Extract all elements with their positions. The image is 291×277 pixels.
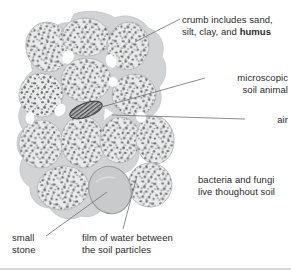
label-microbes: bacteria and fungi live thoughout soil <box>198 174 275 198</box>
label-small-stone-line1: small <box>12 232 36 244</box>
label-crumb: crumb includes sand, silt, clay, and hum… <box>182 14 273 38</box>
label-small-stone-line2: stone <box>12 244 36 256</box>
soil-structure-figure: crumb includes sand, silt, clay, and hum… <box>0 0 291 277</box>
air-pocket <box>109 77 118 87</box>
label-crumb-humus: humus <box>240 26 271 37</box>
label-crumb-line2: silt, clay, and humus <box>182 26 273 38</box>
label-water-film-line1: film of water between <box>82 232 173 244</box>
label-crumb-line2-prefix: silt, clay, and <box>182 26 240 37</box>
footer-divider <box>0 268 291 270</box>
label-air: air <box>248 114 288 126</box>
label-soil-animal-line2: soil animal <box>208 84 288 96</box>
air-pocket <box>26 112 35 124</box>
label-soil-animal: microscopic soil animal <box>208 72 288 96</box>
label-water-film: film of water between the soil particles <box>82 232 173 256</box>
label-water-film-line2: the soil particles <box>82 244 173 256</box>
label-soil-animal-line1: microscopic <box>208 72 288 84</box>
label-air-line1: air <box>248 114 288 126</box>
label-crumb-line1: crumb includes sand, <box>182 14 273 26</box>
label-microbes-line1: bacteria and fungi <box>198 174 275 186</box>
label-small-stone: small stone <box>12 232 36 256</box>
label-microbes-line2: live thoughout soil <box>198 186 275 198</box>
